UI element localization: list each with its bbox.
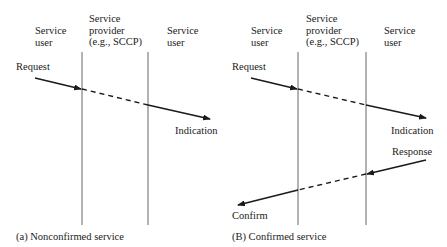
primitive-response-b: Response [392,146,432,158]
column-header-service-provider-b: Service provider (e.g., SCCP) [306,13,359,48]
diagram-b-response-arrow [238,160,426,205]
primitive-confirm-b: Confirm [232,210,268,222]
caption-b: (B) Confirmed service [232,231,326,243]
primitive-request-a: Request [16,61,50,73]
primitive-indication-a: Indication [175,125,218,137]
column-header-service-provider-a: Service provider (e.g., SCCP) [89,13,142,48]
caption-a: (a) Nonconfirmed service [16,231,124,243]
column-header-service-user-right-a: Service user [167,25,199,48]
column-header-service-user-left-b: Service user [251,25,283,48]
diagram-a-lifelines [82,52,148,225]
primitive-request-b: Request [232,61,266,73]
column-header-service-user-left-a: Service user [35,25,67,48]
diagram-a-request-arrow [35,78,210,119]
sequence-diagram-graphics [0,0,447,247]
column-header-service-user-right-b: Service user [384,25,416,48]
diagram-b-lifelines [298,52,366,225]
primitive-indication-b: Indication [391,125,434,137]
diagram-b-request-arrow [251,78,426,118]
